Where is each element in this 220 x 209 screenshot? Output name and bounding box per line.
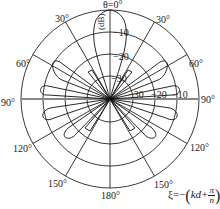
formula-kd: kd+ [191, 188, 209, 200]
radial-tick-20: −20 [113, 52, 129, 62]
horizontal-tick-30: −30 [128, 90, 144, 100]
angle-label-30-right: 30° [156, 15, 170, 25]
phase-formula: ξ=−(kd+πn) [168, 186, 220, 205]
angle-label-150-left: 150° [48, 179, 67, 189]
angle-label-60-right: 60° [189, 59, 203, 69]
formula-lhs: ξ=− [168, 188, 185, 200]
horizontal-tick-10: −10 [172, 90, 188, 100]
angle-label-120-left: 120° [13, 144, 32, 154]
radial-tick-30: −30 [111, 74, 127, 84]
angle-label-60-left: 60° [16, 59, 30, 69]
angle-label-90-right: 90° [201, 95, 215, 105]
db-unit-label: (dB) [97, 14, 106, 31]
horizontal-tick-20: −20 [151, 90, 167, 100]
angle-label-120-right: 120° [190, 143, 209, 153]
polar-plot [0, 0, 220, 209]
radial-tick-10: −10 [113, 28, 129, 38]
angle-label-30-left: 30° [55, 14, 69, 24]
angle-label-90-left: 90° [1, 98, 15, 108]
theta-zero-label: θ=0° [103, 0, 122, 10]
angle-label-180: 180° [101, 191, 120, 201]
